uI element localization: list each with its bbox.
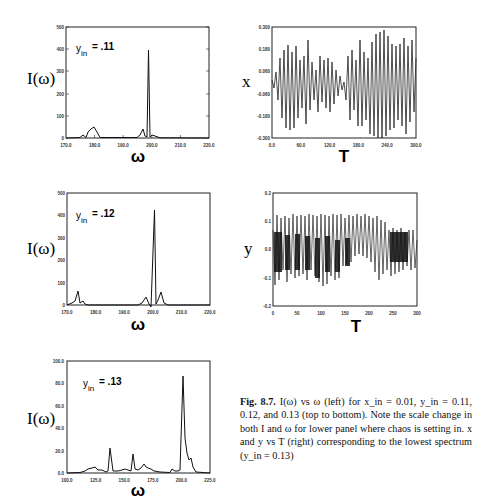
svg-text:200: 200 — [56, 92, 64, 97]
svg-text:300: 300 — [56, 69, 64, 74]
y-vs-t-panel: 0.2 0.1 0.0 -0.1 -0.2 0 50 100 150 200 2… — [240, 170, 479, 340]
svg-text:in: in — [81, 216, 87, 225]
y-axis-label: I(ω) — [27, 409, 55, 428]
y-axis-label: x — [242, 72, 251, 91]
svg-text:60.0: 60.0 — [296, 143, 305, 148]
svg-text:0.0: 0.0 — [265, 247, 272, 252]
x-axis-label: T — [351, 317, 362, 336]
svg-text:0: 0 — [62, 303, 65, 308]
svg-text:100: 100 — [317, 311, 325, 316]
y-vs-t-chart: 0.2 0.1 0.0 -0.1 -0.2 0 50 100 150 200 2… — [240, 170, 479, 340]
svg-text:170.0: 170.0 — [60, 143, 72, 148]
spectrum-panel-011: 500 400 300 200 100 0 170.0 180.0 190.0 … — [0, 0, 240, 170]
svg-text:190.0: 190.0 — [119, 310, 131, 315]
svg-text:0.180: 0.180 — [259, 47, 271, 52]
svg-text:200: 200 — [365, 311, 373, 316]
x-axis-label: ω — [131, 481, 145, 500]
svg-text:100: 100 — [56, 114, 64, 119]
svg-text:500: 500 — [57, 191, 65, 196]
spectrum-chart-011: 500 400 300 200 100 0 170.0 180.0 190.0 … — [0, 0, 240, 170]
svg-text:300: 300 — [57, 236, 65, 241]
svg-text:50: 50 — [294, 311, 300, 316]
svg-text:0.060: 0.060 — [259, 69, 271, 74]
figure-label: Fig. 8.7. — [240, 396, 276, 407]
svg-text:180.0: 180.0 — [353, 143, 365, 148]
svg-text:225.0: 225.0 — [204, 478, 216, 483]
svg-text:210.0: 210.0 — [175, 143, 187, 148]
svg-text:-0.300: -0.300 — [257, 136, 270, 141]
svg-text:-0.2: -0.2 — [263, 304, 271, 309]
svg-text:-0.060: -0.060 — [257, 92, 270, 97]
x-axis-label: T — [339, 147, 350, 166]
svg-text:= .11: = .11 — [92, 41, 114, 52]
svg-text:100.0: 100.0 — [61, 478, 73, 483]
svg-text:180.0: 180.0 — [90, 310, 102, 315]
svg-text:500: 500 — [56, 25, 64, 30]
svg-text:200.0: 200.0 — [176, 478, 188, 483]
svg-text:300.0: 300.0 — [410, 143, 422, 148]
svg-text:100.0: 100.0 — [53, 359, 65, 364]
svg-text:400: 400 — [57, 213, 65, 218]
svg-text:125.0: 125.0 — [90, 478, 102, 483]
svg-text:170.0: 170.0 — [61, 310, 73, 315]
svg-text:= .13: = .13 — [99, 376, 122, 387]
svg-text:0: 0 — [61, 136, 64, 141]
svg-text:0.300: 0.300 — [259, 25, 271, 30]
y-axis-label: y — [244, 239, 253, 258]
svg-text:400: 400 — [56, 47, 64, 52]
svg-text:0.2: 0.2 — [265, 191, 272, 196]
figure-caption: Fig. 8.7. I(ω) vs ω (left) for x_in = 0.… — [240, 395, 472, 462]
svg-text:0.0: 0.0 — [269, 143, 276, 148]
svg-text:180.0: 180.0 — [89, 143, 101, 148]
svg-text:240.0: 240.0 — [382, 143, 394, 148]
svg-text:-0.180: -0.180 — [257, 114, 270, 119]
svg-text:200: 200 — [57, 258, 65, 263]
x-vs-t-panel: 0.300 0.180 0.060 -0.060 -0.180 -0.300 0… — [240, 0, 479, 170]
svg-text:0.0: 0.0 — [58, 471, 65, 476]
svg-text:-0.1: -0.1 — [263, 276, 271, 281]
svg-text:20.0: 20.0 — [55, 449, 64, 454]
svg-text:0: 0 — [272, 311, 275, 316]
svg-text:150: 150 — [341, 311, 349, 316]
svg-text:220.0: 220.0 — [204, 310, 216, 315]
x-axis-label: ω — [131, 147, 145, 166]
svg-text:= .12: = .12 — [92, 208, 115, 219]
svg-text:220.0: 220.0 — [203, 143, 215, 148]
spectrum-panel-012: 500 400 300 200 100 0 170.0 180.0 190.0 … — [0, 170, 240, 340]
svg-text:200.0: 200.0 — [147, 310, 159, 315]
svg-text:80.0: 80.0 — [55, 381, 64, 386]
svg-text:60.0: 60.0 — [55, 404, 64, 409]
svg-text:in: in — [81, 49, 87, 58]
svg-text:200.0: 200.0 — [146, 143, 158, 148]
svg-text:120.0: 120.0 — [324, 143, 336, 148]
svg-text:0.1: 0.1 — [265, 219, 272, 224]
svg-text:150.0: 150.0 — [119, 478, 131, 483]
svg-text:250: 250 — [389, 311, 397, 316]
svg-text:190.0: 190.0 — [118, 143, 130, 148]
spectrum-panel-013: 100.0 80.0 60.0 40.0 20.0 0.0 100.0 125.… — [0, 330, 240, 500]
svg-text:210.0: 210.0 — [176, 310, 188, 315]
y-axis-label: I(ω) — [27, 69, 55, 88]
spectrum-chart-013: 100.0 80.0 60.0 40.0 20.0 0.0 100.0 125.… — [0, 330, 240, 500]
svg-text:300: 300 — [413, 311, 421, 316]
svg-text:in: in — [88, 384, 94, 393]
x-vs-t-chart: 0.300 0.180 0.060 -0.060 -0.180 -0.300 0… — [240, 0, 479, 170]
svg-text:40.0: 40.0 — [55, 426, 64, 431]
svg-text:175.0: 175.0 — [147, 478, 159, 483]
y-axis-label: I(ω) — [27, 239, 55, 258]
svg-text:100: 100 — [57, 281, 65, 286]
spectrum-chart-012: 500 400 300 200 100 0 170.0 180.0 190.0 … — [0, 170, 240, 340]
